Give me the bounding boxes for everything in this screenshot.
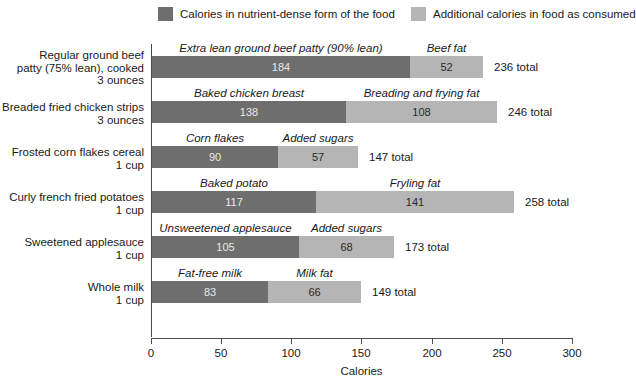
bar-segment-value: 83 (204, 281, 216, 303)
category-label-line: Breaded fried chicken strips (0, 101, 144, 114)
legend-item-label: Additional calories in food as consumed (433, 7, 636, 21)
legend-swatch-icon (411, 7, 426, 21)
category-label-line: Sweetened applesauce (0, 236, 144, 249)
bar-segment-value: 141 (406, 191, 424, 213)
bar-segment-value: 66 (308, 281, 320, 303)
bar-segment-base: Corn flakes 90 (152, 146, 278, 168)
x-axis-tick (221, 338, 222, 344)
x-axis-tick-label: 250 (482, 347, 522, 359)
bar-segment-base: Fat-free milk 83 (152, 281, 268, 303)
chart-legend: Calories in nutrient-dense form of the f… (0, 6, 635, 28)
bar-segment-extra: Breading and frying fat 108 (346, 101, 497, 123)
category-label: Whole milk 1 cup (0, 281, 144, 306)
bar-total-label: 236 total (494, 56, 538, 78)
chart-row: Whole milk 1 cup Fat-free milk 83 Milk f… (0, 263, 635, 308)
bar-segment-name: Milk fat (268, 267, 361, 280)
bar-segment-name: Extra lean ground beef patty (90% lean) (152, 42, 410, 55)
legend-item-nutrient-dense: Calories in nutrient-dense form of the f… (158, 7, 395, 21)
stacked-bar: Extra lean ground beef patty (90% lean) … (152, 56, 483, 78)
bar-segment-value: 57 (312, 146, 324, 168)
bar-segment-value: 117 (225, 191, 243, 213)
legend-item-additional-calories: Additional calories in food as consumed (411, 7, 636, 21)
bar-segment-value: 105 (216, 236, 234, 258)
x-axis-tick-label: 300 (552, 347, 592, 359)
category-label: Sweetened applesauce 1 cup (0, 236, 144, 261)
category-label-line: 3 ounces (0, 114, 144, 127)
x-axis-tick (572, 338, 573, 344)
category-label-line: 1 cup (0, 204, 144, 217)
x-axis-tick-label: 100 (271, 347, 311, 359)
bar-segment-name: Corn flakes (152, 132, 278, 145)
stacked-bar: Corn flakes 90 Added sugars 57 (152, 146, 358, 168)
category-label: Regular ground beef patty (75% lean), co… (0, 49, 144, 87)
bar-total-label: 246 total (508, 101, 552, 123)
stacked-bar: Fat-free milk 83 Milk fat 66 (152, 281, 361, 303)
bar-segment-value: 108 (412, 101, 430, 123)
bar-segment-extra: Milk fat 66 (268, 281, 361, 303)
chart-row: Breaded fried chicken strips 3 ounces Ba… (0, 83, 635, 128)
bar-total-label: 258 total (525, 191, 569, 213)
category-label: Breaded fried chicken strips 3 ounces (0, 101, 144, 126)
bar-segment-name: Beef fat (410, 42, 483, 55)
bar-segment-value: 138 (240, 101, 258, 123)
bar-segment-name: Unsweetened applesauce (152, 222, 299, 235)
x-axis-tick (291, 338, 292, 344)
bar-segment-extra: Added sugars 57 (278, 146, 358, 168)
stacked-bar: Unsweetened applesauce 105 Added sugars … (152, 236, 394, 258)
bar-segment-extra: Added sugars 68 (299, 236, 394, 258)
category-label-line: Frosted corn flakes cereal (0, 146, 144, 159)
category-label-line: Curly french fried potatoes (0, 191, 144, 204)
legend-swatch-icon (158, 7, 173, 21)
bar-segment-value: 68 (340, 236, 352, 258)
category-label-line: 1 cup (0, 159, 144, 172)
bar-total-label: 173 total (405, 236, 449, 258)
bar-segment-name: Added sugars (299, 222, 394, 235)
bar-segment-name: Fat-free milk (152, 267, 268, 280)
bar-segment-value: 184 (272, 56, 290, 78)
category-label-line: 1 cup (0, 249, 144, 262)
chart-plot-area: Regular ground beef patty (75% lean), co… (0, 38, 635, 338)
chart-row: Curly french fried potatoes 1 cup Baked … (0, 173, 635, 218)
x-axis-tick-label: 150 (341, 347, 381, 359)
x-axis-tick-label: 0 (131, 347, 171, 359)
stacked-bar: Baked chicken breast 138 Breading and fr… (152, 101, 497, 123)
bar-segment-value: 90 (209, 146, 221, 168)
chart-row: Frosted corn flakes cereal 1 cup Corn fl… (0, 128, 635, 173)
bar-total-label: 149 total (372, 281, 416, 303)
stacked-bar: Baked potato 117 Fryling fat 141 (152, 191, 514, 213)
legend-item-label: Calories in nutrient-dense form of the f… (180, 7, 395, 21)
category-label: Curly french fried potatoes 1 cup (0, 191, 144, 216)
bar-segment-base: Baked chicken breast 138 (152, 101, 346, 123)
x-axis-tick (151, 338, 152, 344)
category-label: Frosted corn flakes cereal 1 cup (0, 146, 144, 171)
category-label-line: Whole milk (0, 281, 144, 294)
bar-segment-name: Fryling fat (316, 177, 514, 190)
chart-row: Regular ground beef patty (75% lean), co… (0, 38, 635, 83)
bar-segment-base: Unsweetened applesauce 105 (152, 236, 299, 258)
x-axis-tick (432, 338, 433, 344)
x-axis-tick-label: 200 (412, 347, 452, 359)
bar-segment-extra: Beef fat 52 (410, 56, 483, 78)
category-label-line: Regular ground beef (0, 49, 144, 62)
bar-total-label: 147 total (369, 146, 413, 168)
bar-segment-extra: Fryling fat 141 (316, 191, 514, 213)
category-label-line: 1 cup (0, 294, 144, 307)
category-label-line: patty (75% lean), cooked (0, 62, 144, 75)
chart-row: Sweetened applesauce 1 cup Unsweetened a… (0, 218, 635, 263)
bar-segment-name: Baked chicken breast (152, 87, 346, 100)
bar-segment-name: Added sugars (278, 132, 358, 145)
bar-segment-base: Extra lean ground beef patty (90% lean) … (152, 56, 410, 78)
x-axis: 0 50 100 150 200 250 300 Calories (0, 338, 635, 384)
bar-segment-name: Baked potato (152, 177, 316, 190)
x-axis-title: Calories (151, 365, 572, 377)
bar-segment-base: Baked potato 117 (152, 191, 316, 213)
bar-segment-name: Breading and frying fat (346, 87, 497, 100)
x-axis-tick (361, 338, 362, 344)
x-axis-tick (502, 338, 503, 344)
x-axis-tick-label: 50 (201, 347, 241, 359)
bar-segment-value: 52 (440, 56, 452, 78)
